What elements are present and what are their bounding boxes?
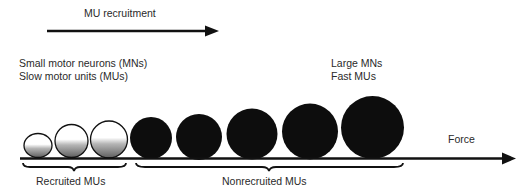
fast-mu-label: Fast MUs bbox=[331, 70, 376, 83]
recruitment-arrow bbox=[47, 26, 219, 37]
nonrecruited-mus-label: Nonrecruited MUs bbox=[222, 175, 307, 188]
motor-unit-4 bbox=[130, 117, 172, 159]
motor-unit-1 bbox=[24, 134, 52, 158]
motor-unit-7 bbox=[282, 104, 338, 160]
recruited-brace bbox=[23, 163, 126, 171]
motor-unit-2 bbox=[55, 125, 88, 158]
force-axis-arrow bbox=[20, 153, 516, 165]
recruitment-diagram bbox=[0, 0, 529, 191]
motor-unit-6 bbox=[227, 109, 278, 160]
motor-unit-8 bbox=[341, 96, 404, 159]
recruited-motor-units bbox=[24, 121, 128, 158]
motor-unit-3 bbox=[91, 121, 128, 158]
nonrecruited-brace bbox=[136, 163, 403, 171]
nonrecruited-motor-units bbox=[130, 96, 404, 160]
slow-mu-label: Slow motor units (MUs) bbox=[19, 70, 128, 83]
recruitment-arrow-label: MU recruitment bbox=[84, 7, 156, 20]
recruited-mus-label: Recruited MUs bbox=[36, 175, 105, 188]
motor-unit-5 bbox=[176, 114, 222, 160]
force-label: Force bbox=[448, 133, 475, 146]
large-mn-label: Large MNs bbox=[331, 57, 382, 70]
small-mn-label: Small motor neurons (MNs) bbox=[19, 57, 147, 70]
